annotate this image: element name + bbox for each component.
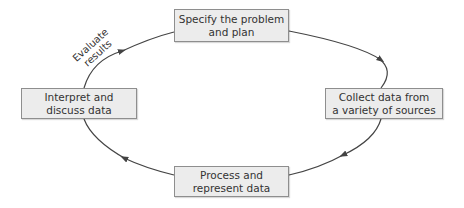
node-text-line1: Specify the problem xyxy=(179,13,285,26)
node-text-line1: Process and xyxy=(200,169,263,182)
arrow-top-to-right xyxy=(289,31,381,60)
node-text-line2: a variety of sources xyxy=(332,104,436,117)
node-text-line1: Collect data from xyxy=(339,91,430,104)
node-interpret-data: Interpret and discuss data xyxy=(21,88,137,119)
node-collect-data: Collect data from a variety of sources xyxy=(325,88,443,119)
node-text-line1: Interpret and xyxy=(44,91,113,104)
node-text-line2: represent data xyxy=(193,182,270,195)
node-text-line2: and plan xyxy=(209,26,255,39)
node-specify-problem: Specify the problem and plan xyxy=(174,9,289,42)
node-process-data: Process and represent data xyxy=(174,166,289,197)
node-text-line2: discuss data xyxy=(46,104,111,117)
